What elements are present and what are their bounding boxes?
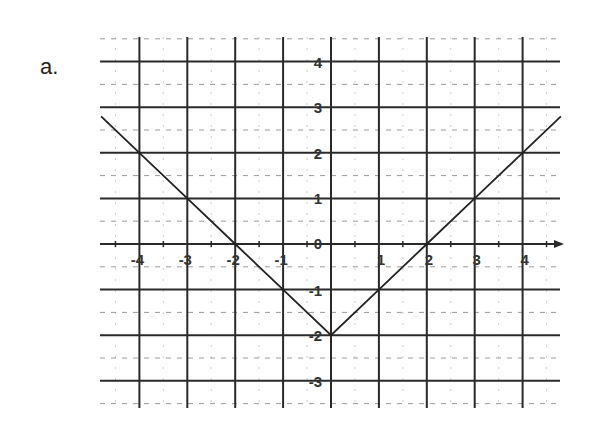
axes bbox=[100, 37, 564, 408]
x-tick-label: 1 bbox=[377, 251, 385, 268]
x-tick-label: 4 bbox=[520, 251, 529, 268]
x-tick-label: -1 bbox=[274, 251, 287, 268]
x-tick-label: -4 bbox=[131, 251, 145, 268]
x-tick-label: 3 bbox=[473, 251, 481, 268]
y-tick-label: 2 bbox=[314, 145, 322, 162]
x-tick-label: -3 bbox=[179, 251, 192, 268]
graph-plot: -4-3-2-1123443210-1-2-3 bbox=[0, 0, 590, 436]
y-tick-label: 1 bbox=[314, 190, 322, 207]
x-axis-arrow-icon bbox=[554, 240, 564, 248]
y-tick-label: -1 bbox=[309, 282, 322, 299]
x-tick-label: -2 bbox=[227, 251, 240, 268]
y-tick-label: -3 bbox=[309, 373, 322, 390]
y-tick-label: -2 bbox=[309, 327, 322, 344]
y-tick-label: 0 bbox=[314, 235, 322, 252]
y-tick-label: 3 bbox=[314, 99, 322, 116]
y-tick-label: 4 bbox=[314, 54, 323, 71]
x-tick-label: 2 bbox=[425, 251, 433, 268]
